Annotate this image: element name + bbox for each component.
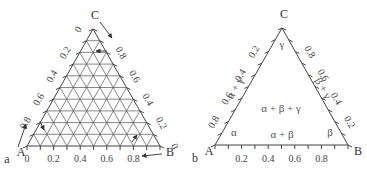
bottom-tick-label: 0.8 (127, 153, 140, 164)
left-tick-label: 0.8 (205, 114, 221, 130)
vertex-A-label: A (205, 144, 214, 158)
left-tick-label: 0.6 (30, 91, 46, 107)
arrow-icon (142, 154, 162, 156)
ternary-panel-a (23, 29, 164, 150)
phase-label-alpha-beta-gamma: α + β + γ (261, 102, 301, 114)
left-tick-label: 0.2 (57, 44, 73, 60)
left-tick-label: 0.2 (246, 43, 262, 59)
left-tick-label: 0.8 (17, 115, 33, 131)
bottom-tick-label: 0 (25, 153, 30, 164)
phase-label-alpha: α (231, 126, 237, 138)
vertex-B-label: B (354, 144, 362, 158)
left-tick-label: 0.4 (44, 68, 60, 84)
right-tick-label: 0.4 (140, 91, 156, 107)
phase-label-gamma: γ (279, 38, 285, 50)
bottom-tick-label: 0.4 (74, 153, 87, 164)
arrow-icon (100, 22, 112, 38)
left-tick-label: 0 (72, 24, 84, 34)
right-tick-label: 0.2 (154, 115, 170, 131)
right-tick-label: 0.8 (114, 44, 130, 60)
vertex-C-label: C (280, 7, 288, 21)
bottom-tick-label: 0.2 (235, 153, 248, 164)
right-tick-label: 0.8 (302, 43, 318, 59)
bottom-tick-label: 0.4 (262, 153, 275, 164)
bottom-tick-label: 0.8 (315, 153, 328, 164)
ternary-diagrams: ABCa00.20.40.60.80.80.60.40.200.80.60.40… (0, 0, 367, 172)
right-tick-label: 0.6 (127, 68, 143, 84)
vertex-C-label: C (91, 8, 99, 22)
phase-label-beta: β (327, 126, 333, 138)
bottom-tick-label: 0.6 (289, 153, 302, 164)
bottom-tick-label: 0.2 (47, 153, 60, 164)
panel-label: a (4, 152, 10, 166)
bottom-tick-label: 0.6 (101, 153, 114, 164)
phase-label-alpha-beta: α + β (270, 128, 293, 140)
right-tick-label: 0 (169, 141, 181, 151)
panel-label: b (192, 151, 198, 165)
right-tick-label: 0.2 (342, 114, 358, 130)
